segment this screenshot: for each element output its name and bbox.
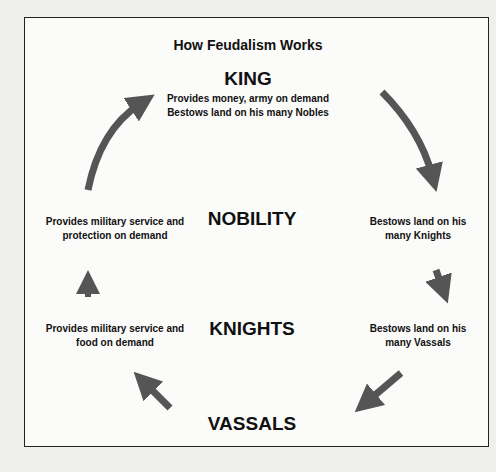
arrow-knights-to-vassals-icon	[368, 373, 401, 401]
cycle-arrows	[0, 0, 496, 472]
arrow-to-king-icon	[88, 104, 140, 190]
arrow-nobility-to-knights-icon	[436, 270, 442, 287]
arrow-vassals-to-knights-icon	[146, 384, 170, 408]
arrow-king-to-nobility-icon	[382, 92, 432, 175]
